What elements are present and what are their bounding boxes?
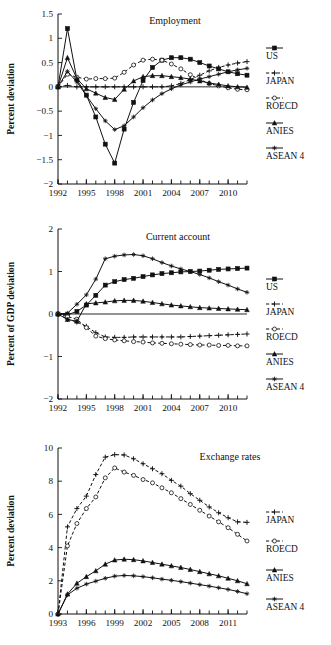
y-tick-label: 0.5 bbox=[42, 58, 54, 68]
data-marker bbox=[160, 486, 164, 490]
data-marker bbox=[132, 340, 136, 344]
x-tick-label: 1993 bbox=[49, 618, 68, 628]
data-marker bbox=[169, 342, 173, 346]
data-marker bbox=[226, 587, 231, 592]
data-marker bbox=[150, 256, 155, 261]
series-line bbox=[58, 575, 247, 614]
data-marker bbox=[113, 338, 117, 342]
legend-item-asean-4[interactable]: ASEAN 4 bbox=[266, 146, 305, 161]
y-tick-label: 0 bbox=[48, 309, 53, 319]
data-marker bbox=[272, 71, 277, 76]
x-tick-label: 2007 bbox=[191, 188, 210, 198]
chart-title: Exchange rates bbox=[200, 451, 261, 462]
data-marker bbox=[226, 283, 231, 288]
legend-item-japan[interactable]: JAPAN bbox=[266, 71, 295, 87]
data-marker bbox=[112, 254, 117, 259]
x-tick-label: 2004 bbox=[162, 188, 181, 198]
chart-title: Employment bbox=[149, 15, 201, 26]
data-marker bbox=[84, 582, 89, 587]
data-marker bbox=[273, 327, 277, 331]
data-marker bbox=[94, 115, 98, 119]
data-marker bbox=[272, 146, 277, 151]
data-marker bbox=[131, 334, 136, 339]
legend-item-roecd[interactable]: ROECD bbox=[266, 327, 298, 342]
data-marker bbox=[207, 333, 212, 338]
legend-item-us[interactable]: US bbox=[266, 46, 283, 61]
data-marker bbox=[160, 58, 164, 62]
x-tick-label: 1998 bbox=[106, 403, 125, 413]
legend-item-anies[interactable]: ANIES bbox=[266, 121, 294, 136]
data-marker bbox=[245, 266, 249, 270]
data-marker bbox=[122, 70, 126, 74]
x-tick-label: 2004 bbox=[162, 403, 181, 413]
chart-legend: USJAPANROECDANIESASEAN 4 bbox=[266, 46, 305, 161]
data-marker bbox=[132, 276, 136, 280]
y-tick-label: −1.5 bbox=[36, 155, 53, 165]
x-tick-label: 1992 bbox=[49, 188, 68, 198]
data-marker bbox=[112, 574, 117, 579]
legend-label: JAPAN bbox=[266, 76, 295, 86]
data-marker bbox=[245, 520, 250, 525]
data-marker bbox=[235, 287, 240, 292]
data-marker bbox=[112, 84, 117, 89]
data-marker bbox=[179, 56, 183, 60]
legend-label: JAPAN bbox=[266, 515, 295, 525]
data-marker bbox=[217, 267, 221, 271]
data-marker bbox=[188, 57, 192, 61]
data-marker bbox=[93, 472, 98, 477]
data-marker bbox=[245, 66, 250, 71]
data-marker bbox=[235, 519, 240, 524]
data-marker bbox=[94, 293, 98, 297]
data-marker bbox=[236, 72, 240, 76]
legend-item-anies[interactable]: ANIES bbox=[266, 568, 294, 583]
legend-item-asean-4[interactable]: ASEAN 4 bbox=[266, 377, 305, 392]
y-tick-label: 1 bbox=[48, 33, 53, 43]
data-marker bbox=[103, 337, 107, 341]
legend-item-japan[interactable]: JAPAN bbox=[266, 302, 295, 318]
legend-item-roecd[interactable]: ROECD bbox=[266, 96, 298, 111]
data-marker bbox=[103, 84, 108, 89]
data-marker bbox=[197, 582, 202, 587]
data-marker bbox=[65, 524, 70, 529]
data-marker bbox=[272, 510, 277, 515]
data-marker bbox=[75, 522, 79, 526]
legend-item-asean-4[interactable]: ASEAN 4 bbox=[266, 597, 305, 612]
data-marker bbox=[122, 339, 126, 343]
data-marker bbox=[141, 275, 145, 279]
y-tick-label: 2 bbox=[48, 576, 53, 586]
legend-item-us[interactable]: US bbox=[266, 277, 283, 292]
data-marker bbox=[217, 520, 221, 524]
x-tick-label: 1992 bbox=[49, 403, 68, 413]
data-marker bbox=[151, 481, 155, 485]
data-marker bbox=[273, 277, 277, 281]
data-marker bbox=[226, 332, 231, 337]
data-marker bbox=[94, 495, 98, 499]
data-marker bbox=[272, 377, 277, 382]
data-marker bbox=[169, 56, 173, 60]
legend-item-japan[interactable]: JAPAN bbox=[266, 510, 295, 526]
data-marker bbox=[151, 341, 155, 345]
x-tick-label: 2001 bbox=[134, 403, 153, 413]
data-marker bbox=[169, 62, 173, 66]
data-marker bbox=[141, 478, 145, 482]
data-marker bbox=[235, 61, 240, 66]
legend-label: JAPAN bbox=[266, 307, 295, 317]
data-marker bbox=[122, 452, 127, 457]
legend-item-roecd[interactable]: ROECD bbox=[266, 539, 298, 554]
chart-title: Current account bbox=[146, 231, 210, 242]
data-marker bbox=[226, 343, 230, 347]
data-marker bbox=[160, 272, 164, 276]
data-marker bbox=[131, 574, 136, 579]
data-marker bbox=[103, 576, 108, 581]
legend-label: ASEAN 4 bbox=[266, 602, 305, 612]
data-marker bbox=[122, 573, 127, 578]
data-marker bbox=[207, 68, 212, 73]
data-marker bbox=[188, 343, 192, 347]
series-roecd bbox=[56, 312, 249, 348]
legend-item-anies[interactable]: ANIES bbox=[266, 352, 294, 367]
legend-label: ROECD bbox=[266, 332, 298, 342]
data-marker bbox=[273, 539, 277, 543]
y-axis-label: Percent of GDP deviation bbox=[5, 261, 16, 366]
data-marker bbox=[65, 544, 69, 548]
data-marker bbox=[94, 579, 99, 584]
